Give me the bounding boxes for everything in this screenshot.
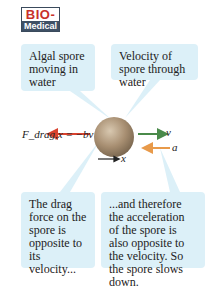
x-axis-label: x bbox=[121, 152, 126, 164]
callout-acceleration-text: ...and therefore the acceleration of the… bbox=[109, 197, 185, 289]
callout-spore-text: Algal spore moving in water bbox=[29, 49, 85, 89]
callout-acceleration: ...and therefore the acceleration of the… bbox=[101, 192, 205, 268]
callout-tail-3 bbox=[60, 140, 100, 192]
velocity-label: v⃗ bbox=[166, 126, 179, 138]
callout-drag: The drag force on the spore is opposite … bbox=[21, 192, 95, 268]
spore bbox=[94, 117, 134, 157]
acceleration-label: a⃗ bbox=[172, 141, 186, 153]
callout-tail-1 bbox=[70, 91, 112, 120]
callout-velocity: Velocity of spore through water bbox=[111, 44, 198, 80]
drag-force-label: F_drag,x = −bv bbox=[22, 128, 93, 140]
callout-drag-text: The drag force on the spore is opposite … bbox=[29, 197, 86, 276]
callout-spore: Algal spore moving in water bbox=[21, 44, 95, 91]
callout-tail-4 bbox=[160, 148, 180, 192]
